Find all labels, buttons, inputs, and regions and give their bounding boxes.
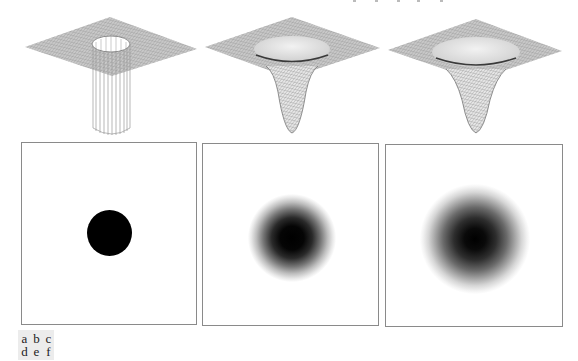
black-disk	[87, 210, 132, 256]
image-panel-f	[385, 144, 563, 327]
surface-plot-b	[190, 0, 390, 140]
surface-plot-a	[0, 0, 200, 140]
gaussian-blob-narrow	[232, 178, 352, 298]
legend-label-d: d	[21, 345, 28, 358]
legend-label-f: f	[45, 345, 52, 358]
legend-label-e: e	[33, 345, 40, 358]
surface-plot-c	[378, 0, 578, 140]
gaussian-blob-wide	[400, 164, 550, 314]
image-panel-d	[21, 142, 197, 325]
panel-label-legend: a b c d e f	[18, 330, 54, 360]
legend-row-bottom: d e f	[21, 345, 54, 358]
figure: a b c d e f	[0, 0, 578, 361]
image-panel-e	[202, 143, 379, 326]
